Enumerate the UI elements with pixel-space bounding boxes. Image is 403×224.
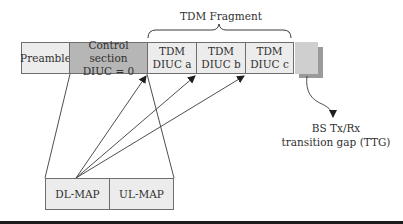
expand-line-right (147, 74, 174, 178)
preamble-cell: Preamble (21, 42, 70, 74)
tdm-a-title: TDM (159, 45, 185, 58)
bottom-border-bar (0, 221, 403, 224)
tdm-fragment-label: TDM Fragment (180, 10, 260, 23)
arrow-to-tdm-c (76, 76, 244, 178)
expand-line-left (45, 74, 70, 178)
tdm-diuc-c-cell: TDM DIUC c (245, 42, 294, 74)
tdm-diuc-a-cell: TDM DIUC a (147, 42, 197, 74)
ttg-pointer-arrow (307, 76, 333, 117)
tdm-b-title: TDM (208, 45, 234, 58)
control-section-cell: Control section DIUC = 0 (69, 42, 148, 74)
dl-map-text: DL-MAP (55, 188, 99, 201)
tdm-a-diuc: DIUC a (152, 58, 191, 71)
tdm-c-diuc: DIUC c (250, 58, 289, 71)
fragment-brace (148, 24, 291, 38)
ttg-label-line2: transition gap (TTG) (281, 136, 391, 149)
dl-map-cell: DL-MAP (45, 178, 110, 210)
tdm-b-diuc: DIUC b (201, 58, 241, 71)
control-section-title: Control section (70, 39, 147, 65)
ttg-label-line1: BS Tx/Rx (296, 122, 376, 135)
ttg-block (295, 42, 318, 74)
control-section-diuc: DIUC = 0 (83, 65, 135, 78)
preamble-text: Preamble (20, 52, 71, 65)
tdm-c-title: TDM (256, 45, 282, 58)
tdm-diuc-b-cell: TDM DIUC b (196, 42, 246, 74)
tdm-frame-diagram: TDM Fragment Preamble Control section DI… (0, 0, 403, 224)
ul-map-cell: UL-MAP (109, 178, 174, 210)
ul-map-text: UL-MAP (119, 188, 164, 201)
